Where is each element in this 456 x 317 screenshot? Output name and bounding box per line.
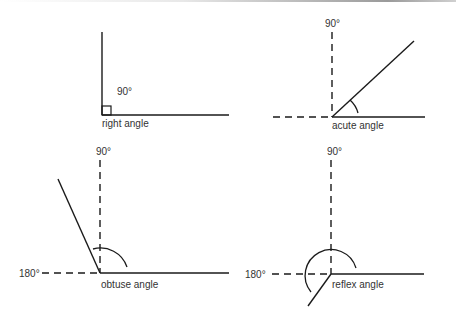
panel-reflex-angle: 90° 180° reflex angle [245, 146, 424, 306]
right-angle-marker [102, 106, 111, 115]
reflex-90-label: 90° [327, 146, 342, 157]
right-angle-degree-label: 90° [117, 86, 132, 97]
acute-90-label: 90° [325, 18, 340, 29]
right-angle-caption: right angle [102, 118, 149, 129]
acute-angle-arc [350, 100, 358, 113]
panel-acute-angle: 90° acute angle [273, 18, 425, 131]
panel-right-angle: 90° right angle [102, 32, 229, 129]
angles-diagram: 90° right angle 90° acute angle 90° 180°… [0, 0, 456, 317]
reflex-slanted-arm [308, 274, 331, 306]
panel-obtuse-angle: 90° 180° obtuse angle [19, 146, 229, 290]
obtuse-slanted-arm [58, 179, 100, 273]
reflex-180-label: 180° [245, 269, 266, 280]
reflex-angle-caption: reflex angle [332, 279, 384, 290]
acute-slanted-arm [332, 41, 414, 117]
acute-angle-caption: acute angle [332, 120, 384, 131]
obtuse-angle-caption: obtuse angle [101, 279, 159, 290]
obtuse-180-label: 180° [19, 268, 40, 279]
obtuse-angle-arc [93, 248, 127, 267]
obtuse-90-label: 90° [96, 146, 111, 157]
